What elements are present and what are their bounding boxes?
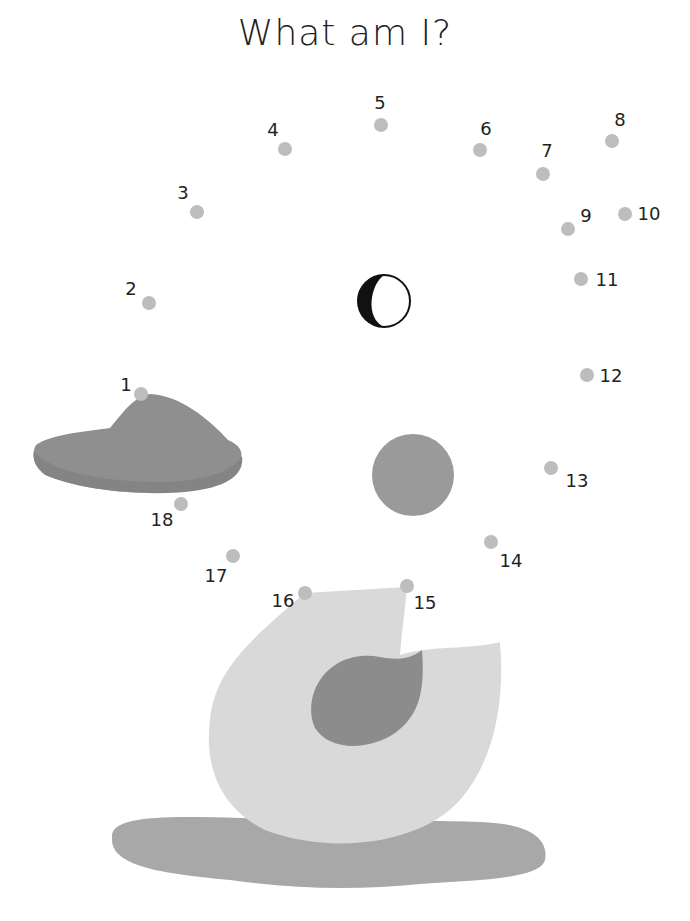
dot-point-4 <box>278 142 292 156</box>
dot-label: 14 <box>500 552 523 570</box>
dot-label: 17 <box>205 567 228 585</box>
eye-icon <box>358 275 410 327</box>
dot-point-11 <box>574 272 588 286</box>
dot-label: 5 <box>374 94 385 112</box>
dot-label: 15 <box>414 594 437 612</box>
dot-label: 11 <box>596 271 619 289</box>
dot-point-16 <box>298 586 312 600</box>
dot-label: 1 <box>120 376 131 394</box>
dot-label: 12 <box>600 367 623 385</box>
dot-point-7 <box>536 167 550 181</box>
dot-label: 8 <box>614 111 625 129</box>
dot-point-15 <box>400 579 414 593</box>
dot-label: 16 <box>272 592 295 610</box>
dot-label: 10 <box>638 205 661 223</box>
dot-point-2 <box>142 296 156 310</box>
duck-cheek-spot <box>372 434 454 516</box>
dot-point-13 <box>544 461 558 475</box>
dot-point-10 <box>618 207 632 221</box>
dot-point-6 <box>473 143 487 157</box>
dot-label: 3 <box>177 184 188 202</box>
dot-label: 6 <box>480 120 491 138</box>
dot-point-12 <box>580 368 594 382</box>
dot-label: 2 <box>125 280 136 298</box>
dot-label: 18 <box>151 511 174 529</box>
dot-point-9 <box>561 222 575 236</box>
dot-point-5 <box>374 118 388 132</box>
dot-point-1 <box>134 387 148 401</box>
duck-illustration <box>0 0 690 921</box>
dot-label: 9 <box>580 207 591 225</box>
dot-label: 7 <box>541 142 552 160</box>
dot-point-14 <box>484 535 498 549</box>
dot-label: 4 <box>267 121 278 139</box>
dot-point-17 <box>226 549 240 563</box>
dot-point-18 <box>174 497 188 511</box>
dot-point-8 <box>605 134 619 148</box>
dot-point-3 <box>190 205 204 219</box>
dot-label: 13 <box>566 472 589 490</box>
